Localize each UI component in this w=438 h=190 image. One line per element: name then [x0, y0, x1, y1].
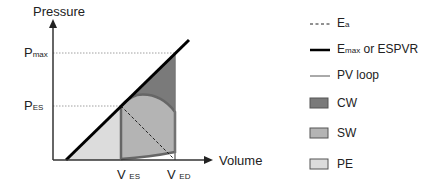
ves-label: V ES [117, 167, 140, 182]
legend-sw-swatch [310, 128, 328, 138]
legend-emax: Emax or ESPVR [337, 42, 418, 56]
y-axis-arrow-icon [49, 19, 57, 28]
legend-ea-main: E [337, 16, 345, 30]
pmax-label: Pmax [24, 45, 48, 60]
pmax-main: P [24, 45, 33, 60]
legend-cw: CW [337, 96, 357, 110]
ved-sub: ED [179, 172, 190, 181]
ves-sub: ES [129, 172, 140, 181]
y-axis-label: Pressure [33, 4, 85, 19]
legend-ea-sub: a [345, 20, 349, 29]
legend-sw: SW [337, 126, 356, 140]
ved-label: V ED [167, 167, 190, 182]
legend-emax-main: E [337, 42, 345, 56]
x-axis-arrow-icon [204, 156, 213, 164]
legend-cw-swatch [310, 98, 328, 108]
legend-emax-sub: max [345, 46, 360, 55]
legend-emax-rest: or ESPVR [360, 42, 418, 56]
pmax-sub: max [33, 50, 48, 59]
legend-pe-swatch [310, 159, 328, 169]
ves-main: V [117, 167, 126, 182]
pes-main: P [24, 98, 33, 113]
legend-pvloop: PV loop [337, 68, 379, 82]
legend-pe: PE [337, 157, 353, 171]
pes-label: PES [24, 98, 43, 113]
legend-ea: Ea [337, 16, 349, 30]
ved-main: V [167, 167, 176, 182]
pes-sub: ES [33, 103, 44, 112]
x-axis-label: Volume [219, 153, 262, 168]
